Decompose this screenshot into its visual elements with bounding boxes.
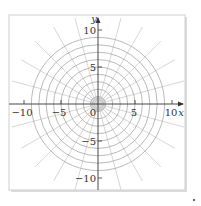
y-tick-label: −10: [75, 173, 96, 184]
y-axis-label: y: [90, 13, 97, 24]
y-tick-label: −5: [81, 136, 96, 147]
origin-label: 0: [90, 107, 96, 118]
y-tick-label: 10: [83, 25, 96, 36]
y-tick-label: 5: [90, 62, 96, 73]
polar-grid-chart: −10−50510−10−5510xy: [0, 0, 201, 206]
x-tick-label: −5: [52, 107, 67, 118]
x-tick-label: 10: [165, 107, 178, 118]
x-tick-label: 5: [131, 107, 137, 118]
corner-mark: [193, 199, 195, 201]
x-tick-label: −10: [11, 107, 32, 118]
x-axis-label: x: [178, 107, 184, 118]
